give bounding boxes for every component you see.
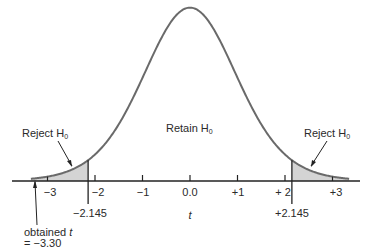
critical-value-left-label: −2.145 xyxy=(73,208,107,219)
tick-label-pos1: +1 xyxy=(232,187,245,198)
obtained-t-value: = −3.30 xyxy=(24,237,61,249)
tick-label-neg1: −1 xyxy=(137,187,150,198)
critical-value-right-label: +2.145 xyxy=(275,208,309,219)
right-reject-subscript: 0 xyxy=(346,133,350,140)
left-reject-arrowhead xyxy=(67,160,72,167)
left-reject-label: Reject H0 xyxy=(22,128,68,140)
tick-label-neg2: −2 xyxy=(92,187,105,198)
left-reject-text: Reject H xyxy=(22,127,64,139)
obtained-t-var: t xyxy=(69,226,72,238)
axis-label-t: t xyxy=(188,210,191,221)
right-reject-text: Reject H xyxy=(304,127,346,139)
tick-label-zero: 0.0 xyxy=(182,187,197,198)
obtained-t-arrow xyxy=(35,182,37,225)
axis-ticks xyxy=(48,175,333,181)
retain-label: Retain H0 xyxy=(166,123,213,135)
obtained-t-annotation: obtained t = −3.30 xyxy=(24,227,72,249)
retain-subscript: 0 xyxy=(209,128,213,135)
retain-text: Retain H xyxy=(166,122,209,134)
tick-label-neg3: −3 xyxy=(44,187,57,198)
tick-label-pos2: + 2 xyxy=(275,187,291,198)
right-reject-label: Reject H0 xyxy=(304,128,350,140)
distribution-curve xyxy=(31,8,349,179)
left-reject-subscript: 0 xyxy=(64,133,68,140)
tick-label-pos3: +3 xyxy=(330,187,343,198)
right-reject-arrowhead xyxy=(311,160,316,167)
